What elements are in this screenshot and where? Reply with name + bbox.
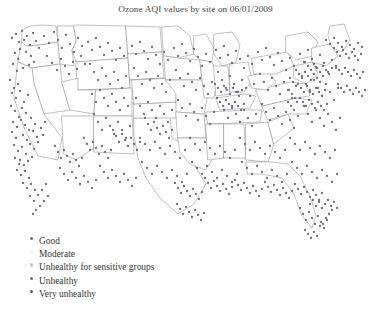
site-dot <box>46 55 48 57</box>
site-dot <box>87 41 89 43</box>
site-dot <box>201 191 203 193</box>
site-dot <box>213 180 215 182</box>
site-dot <box>10 105 12 107</box>
site-dot <box>296 101 298 103</box>
site-dot <box>321 207 323 209</box>
site-dot <box>287 101 289 103</box>
state-colorado <box>94 88 132 116</box>
site-dot <box>195 89 197 91</box>
site-dot <box>240 189 242 191</box>
site-dot <box>27 94 29 96</box>
legend-item-unhealthy-sensitive[interactable]: Unhealthy for sensitive groups <box>30 258 260 271</box>
site-dot <box>61 47 63 49</box>
legend-item-unhealthy[interactable]: Unhealthy <box>30 272 260 285</box>
map-canvas[interactable] <box>0 18 391 248</box>
site-dot <box>84 63 86 65</box>
site-dot <box>314 107 316 109</box>
site-dot <box>135 53 137 55</box>
site-dot <box>92 141 94 143</box>
site-dot <box>12 121 14 123</box>
site-dot <box>189 103 191 105</box>
site-dot <box>327 199 329 201</box>
site-dot <box>169 79 171 81</box>
site-dot <box>323 109 325 111</box>
site-dot <box>163 51 165 53</box>
state-alabama <box>224 124 246 158</box>
site-dot <box>304 141 306 143</box>
site-dot <box>11 131 13 133</box>
site-dot <box>318 91 320 93</box>
site-dot <box>358 91 360 93</box>
site-dot <box>31 156 33 158</box>
site-dot <box>237 184 239 186</box>
site-dot <box>123 55 125 57</box>
site-dot <box>177 99 179 101</box>
site-dot <box>232 87 234 89</box>
legend-item-very-unhealthy[interactable]: Very unhealthy <box>30 285 260 298</box>
site-dot <box>227 54 229 56</box>
site-dot <box>203 85 205 87</box>
site-dot <box>144 143 146 145</box>
site-dot <box>151 173 153 175</box>
site-dot <box>146 167 148 169</box>
site-dot <box>205 53 207 55</box>
site-dot <box>340 87 342 89</box>
site-dot <box>305 83 307 85</box>
site-dot <box>255 113 257 115</box>
site-dot <box>271 169 273 171</box>
site-dot <box>293 127 295 129</box>
site-dot <box>319 71 321 73</box>
site-dot <box>121 87 123 89</box>
site-dot <box>161 171 163 173</box>
site-dot <box>203 212 205 214</box>
state-arkansas <box>176 112 206 138</box>
site-dot <box>25 153 27 155</box>
state-north-dakota <box>126 26 162 54</box>
site-dot <box>228 193 230 195</box>
site-dot <box>281 123 283 125</box>
site-dot <box>267 89 269 91</box>
site-dot <box>180 192 182 194</box>
site-dot <box>239 58 241 60</box>
site-dot <box>265 111 267 113</box>
site-dot <box>231 105 233 107</box>
site-dot <box>275 85 277 87</box>
site-dot <box>307 113 309 115</box>
site-dot <box>348 57 350 59</box>
site-dot <box>311 58 313 60</box>
site-dot <box>149 149 151 151</box>
site-dot <box>237 91 239 93</box>
site-dot <box>295 85 297 87</box>
us-states-map[interactable] <box>0 18 391 248</box>
site-dot <box>331 181 333 183</box>
site-dot <box>351 51 353 53</box>
site-dot <box>255 190 257 192</box>
site-dot <box>150 129 152 131</box>
site-dot <box>159 63 161 65</box>
legend-item-moderate[interactable]: Moderate <box>30 245 260 258</box>
site-dot <box>345 40 347 42</box>
site-dot <box>335 67 337 69</box>
legend-item-good[interactable]: Good <box>30 232 260 245</box>
site-dot <box>22 182 24 184</box>
site-dot <box>329 157 331 159</box>
site-dot <box>37 141 39 143</box>
site-dot <box>26 139 28 141</box>
site-dot <box>293 65 295 67</box>
site-dot <box>243 103 245 105</box>
site-dot <box>36 136 38 138</box>
site-dot <box>343 91 345 93</box>
site-dot <box>87 181 89 183</box>
site-dot <box>24 170 26 172</box>
site-dot <box>43 35 45 37</box>
site-dot <box>24 124 26 126</box>
site-dot <box>261 103 263 105</box>
site-dot <box>336 207 338 209</box>
site-dot <box>279 93 281 95</box>
site-dot <box>225 87 227 89</box>
site-dot <box>237 105 239 107</box>
site-dot <box>235 91 237 93</box>
site-dot <box>336 173 338 175</box>
site-dot <box>91 49 93 51</box>
site-dot <box>302 101 304 103</box>
